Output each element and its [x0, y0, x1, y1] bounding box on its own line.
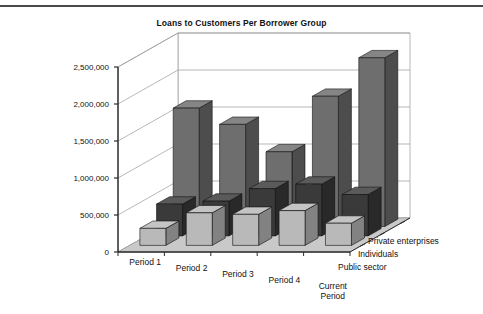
y-axis-tick-label: 2,000,000 — [39, 100, 109, 109]
chart-canvas — [0, 0, 483, 314]
chart-screenshot: Loans to Customers Per Borrower Group 05… — [0, 0, 483, 314]
x-axis-category-label: Period 3 — [212, 270, 264, 280]
chart-plot-area: 0500,0001,000,0001,500,0002,000,0002,500… — [0, 0, 483, 314]
x-axis-category-label: Current Period — [307, 282, 359, 302]
series-label-private-enterprises: Private enterprises — [368, 236, 439, 246]
series-label-public-sector: Public sector — [338, 262, 387, 272]
y-axis-tick-label: 500,000 — [39, 211, 109, 220]
y-axis-tick-label: 1,000,000 — [39, 174, 109, 183]
y-axis-tick-label: 2,500,000 — [39, 63, 109, 72]
x-axis-category-label: Period 1 — [119, 258, 171, 268]
x-axis-category-label: Period 4 — [258, 276, 310, 286]
y-axis-tick-label: 1,500,000 — [39, 137, 109, 146]
y-axis-tick-label: 0 — [39, 248, 109, 257]
x-axis-category-label: Period 2 — [166, 264, 218, 274]
series-label-individuals: Individuals — [358, 249, 398, 259]
